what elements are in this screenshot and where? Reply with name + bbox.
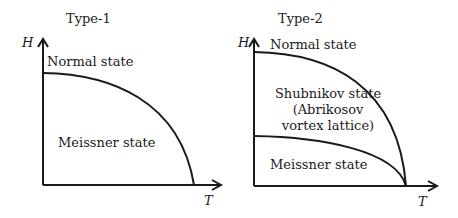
type1-y-axis-label: H (22, 36, 33, 49)
type1-region-meissner: Meissner state (58, 136, 155, 149)
type2-region-shubnikov-sub2: vortex lattice) (258, 119, 398, 132)
type2-y-axis-label: H (238, 36, 249, 49)
type2-x-axis-label: T (418, 195, 427, 208)
type2-region-normal: Normal state (270, 38, 356, 51)
type2-title: Type-2 (278, 12, 323, 25)
type2-region-shubnikov: Shubnikov state (258, 87, 398, 100)
type1-region-normal: Normal state (47, 55, 133, 68)
type1-title: Type-1 (66, 12, 111, 25)
type1-critical-field-curve (43, 73, 194, 185)
type1-x-axis-label: T (204, 194, 213, 207)
type2-region-meissner: Meissner state (270, 158, 367, 171)
type2-region-shubnikov-sub1: (Abrikosov (258, 103, 398, 116)
